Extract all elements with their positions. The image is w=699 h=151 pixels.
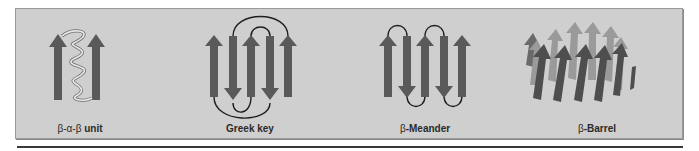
strand-5-up xyxy=(453,35,471,97)
strand-2-down xyxy=(398,36,416,98)
barrel-motif xyxy=(524,22,636,102)
strand-3-up xyxy=(242,35,260,97)
label-beta-meander: β-Meander xyxy=(400,123,450,134)
meander-motif xyxy=(379,26,471,107)
strand-1-up xyxy=(205,35,223,97)
label-text: -Meander xyxy=(406,123,450,134)
label-text: unit xyxy=(81,123,102,134)
loop-bottom-small xyxy=(233,97,251,112)
strand-up-1 xyxy=(49,34,67,100)
loop-bottom-2 xyxy=(444,96,462,107)
loop-bottom-1 xyxy=(407,96,425,107)
strand-up-2 xyxy=(87,34,105,100)
strand-1-up xyxy=(379,35,397,97)
strand-4-down xyxy=(435,36,453,98)
loop-top-small xyxy=(251,27,270,36)
strand-5-up xyxy=(279,35,297,97)
loop-bottom-large xyxy=(214,97,270,118)
strand-3-up xyxy=(416,35,434,97)
loop-top-2 xyxy=(425,26,444,37)
greek-key-motif xyxy=(205,17,297,119)
label-bab-unit: β-α-β unit xyxy=(57,123,102,134)
label-text: -Barrel xyxy=(584,123,616,134)
label-greek: β-α-β xyxy=(57,123,81,134)
label-beta-barrel: β-Barrel xyxy=(578,123,616,134)
label-greek-key: Greek key xyxy=(226,123,274,134)
label-text: Greek key xyxy=(226,123,274,134)
loop-top-large xyxy=(233,17,288,37)
strand-2-down xyxy=(224,36,242,100)
loop-top-1 xyxy=(388,26,407,37)
strand-4-down xyxy=(261,36,279,100)
bab-motif xyxy=(49,31,105,100)
